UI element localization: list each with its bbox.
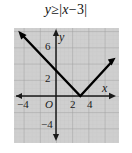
y-tick-label-6: 6	[45, 41, 51, 52]
equation-relation: ≥	[51, 2, 59, 17]
origin-label: O	[45, 99, 53, 110]
x-tick-label-neg4: −4	[17, 99, 29, 110]
y-tick-label-2: 2	[45, 73, 51, 84]
equation-bar-close: |	[84, 2, 87, 17]
equation-title: y≥|x−3|	[0, 2, 132, 18]
y-tick-label-neg4: −4	[41, 119, 53, 130]
x-tick-label-4: 4	[87, 99, 93, 110]
equation-rhs-operator: −	[69, 2, 77, 17]
x-axis-label: x	[102, 82, 107, 94]
x-tick-label-2: 2	[70, 99, 76, 110]
coordinate-grid-panel: y x O −4 2 4 6 2 −4	[14, 28, 119, 143]
y-axis-label: y	[59, 31, 64, 43]
absolute-value-inequality-figure: y≥|x−3|	[0, 0, 132, 153]
